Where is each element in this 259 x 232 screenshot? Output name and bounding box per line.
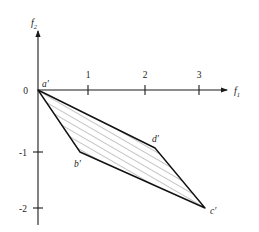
y-tick-label-minus2: -2	[19, 204, 27, 214]
vertex-label-d: d′	[152, 134, 160, 144]
origin-label: 0	[23, 86, 28, 96]
x-tick-label-1: 1	[86, 70, 91, 80]
vertex-label-b: b′	[74, 159, 82, 169]
vertex-label-a: a′	[42, 79, 50, 89]
x-axis-label-sub: 1	[237, 91, 240, 98]
feasible-region-polygon	[38, 90, 205, 208]
x-tick-label-2: 2	[143, 70, 148, 80]
coordinate-plot: 1 2 3 -1 -2 0 f1 f2 a′ b′ c′ d′	[0, 0, 259, 232]
x-tick-label-3: 3	[197, 70, 202, 80]
vertex-label-c: c′	[210, 206, 217, 216]
y-tick-label-minus1: -1	[19, 148, 27, 158]
y-axis-label: f2	[31, 17, 38, 30]
x-axis-label: f1	[234, 85, 240, 98]
figure-container: 1 2 3 -1 -2 0 f1 f2 a′ b′ c′ d′	[0, 0, 259, 232]
y-axis-label-sub: 2	[34, 23, 38, 30]
